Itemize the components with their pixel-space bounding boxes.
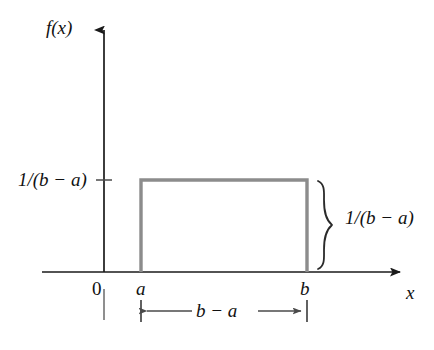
origin-label: 0: [92, 279, 102, 298]
x-tick-label-a: a: [136, 279, 146, 298]
x-tick-label-b: b: [300, 279, 310, 298]
brace-value-label: 1/(b − a): [345, 208, 414, 227]
density-value-label: 1/(b − a): [18, 170, 87, 189]
uniform-distribution-figure: f(x) x 1/(b − a) 1/(b − a) 0 a b b − a: [0, 0, 434, 350]
y-axis-label: f(x): [46, 18, 72, 37]
width-dimension-label: b − a: [196, 301, 237, 320]
height-brace-icon: [318, 181, 332, 269]
x-axis-label: x: [406, 283, 414, 302]
uniform-pdf-rectangle: [141, 180, 307, 272]
